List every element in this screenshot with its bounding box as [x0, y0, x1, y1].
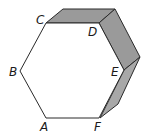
- vertex-label-b: B: [9, 65, 17, 79]
- vertex-label-f: F: [94, 120, 102, 134]
- vertex-label-d: D: [88, 25, 97, 39]
- hexagonal-prism-diagram: C D B E A F: [0, 0, 145, 137]
- vertex-label-c: C: [36, 13, 45, 27]
- vertex-label-a: A: [39, 120, 48, 134]
- vertex-label-e: E: [111, 65, 119, 79]
